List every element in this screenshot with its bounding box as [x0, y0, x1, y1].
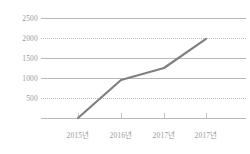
x-axis-label-1: 2016년 [99, 131, 143, 141]
x-axis-label-0: 2015년 [56, 131, 100, 141]
line-chart: 2500 2000 1500 1000 500 2015년 2016년 2017… [0, 0, 250, 154]
x-axis-labels: 2015년 2016년 2017년 2017년 [0, 0, 250, 154]
x-axis-label-2: 2017년 [142, 131, 186, 141]
x-axis-label-3: 2017년 [184, 131, 228, 141]
